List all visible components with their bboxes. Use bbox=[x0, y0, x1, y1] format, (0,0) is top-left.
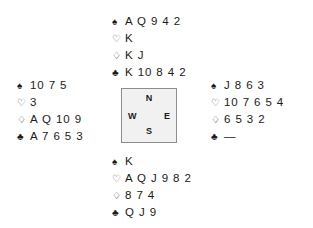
compass-north-label: N bbox=[146, 94, 153, 103]
compass-south-label: S bbox=[146, 127, 152, 136]
heart-icon: ♡ bbox=[112, 34, 125, 44]
hand-north-clubs-row: ♣ K 10 8 4 2 bbox=[112, 64, 186, 81]
hand-east-hearts-row: ♡ 10 7 6 5 4 bbox=[211, 94, 284, 111]
hand-west: ♠ 10 7 5 ♡ 3 ♢ A Q 10 9 ♣ A 7 6 5 3 bbox=[17, 77, 84, 145]
hand-north-hearts: K bbox=[125, 33, 134, 45]
compass-west-label: W bbox=[128, 111, 137, 120]
diamond-icon: ♢ bbox=[112, 51, 125, 61]
spade-icon: ♠ bbox=[112, 157, 125, 167]
hand-south-spades-row: ♠ K bbox=[112, 153, 192, 170]
hand-south-diamonds: 8 7 4 bbox=[125, 190, 155, 202]
diamond-icon: ♢ bbox=[112, 191, 125, 201]
hand-south-diamonds-row: ♢ 8 7 4 bbox=[112, 187, 192, 204]
spade-icon: ♠ bbox=[112, 17, 125, 27]
spade-icon: ♠ bbox=[211, 81, 224, 91]
hand-north-clubs: K 10 8 4 2 bbox=[125, 67, 186, 79]
heart-icon: ♡ bbox=[112, 174, 125, 184]
bridge-deal-diagram: ♠ A Q 9 4 2 ♡ K ♢ K J ♣ K 10 8 4 2 ♠ 10 … bbox=[0, 0, 313, 228]
diamond-icon: ♢ bbox=[211, 115, 224, 125]
hand-south-hearts: A Q J 9 8 2 bbox=[125, 173, 192, 185]
hand-south-hearts-row: ♡ A Q J 9 8 2 bbox=[112, 170, 192, 187]
hand-east-clubs: — bbox=[224, 131, 236, 143]
hand-east-diamonds: 6 5 3 2 bbox=[224, 114, 265, 126]
hand-north-hearts-row: ♡ K bbox=[112, 30, 186, 47]
hand-west-spades-row: ♠ 10 7 5 bbox=[17, 77, 84, 94]
club-icon: ♣ bbox=[112, 208, 125, 218]
club-icon: ♣ bbox=[211, 132, 224, 142]
hand-south-clubs-row: ♣ Q J 9 bbox=[112, 204, 192, 221]
hand-east-spades-row: ♠ J 8 6 3 bbox=[211, 77, 284, 94]
hand-north-diamonds-row: ♢ K J bbox=[112, 47, 186, 64]
hand-east: ♠ J 8 6 3 ♡ 10 7 6 5 4 ♢ 6 5 3 2 ♣ — bbox=[211, 77, 284, 145]
club-icon: ♣ bbox=[17, 132, 30, 142]
heart-icon: ♡ bbox=[211, 98, 224, 108]
hand-west-hearts-row: ♡ 3 bbox=[17, 94, 84, 111]
hand-north-spades: A Q 9 4 2 bbox=[125, 16, 181, 28]
hand-west-clubs-row: ♣ A 7 6 5 3 bbox=[17, 128, 84, 145]
diamond-icon: ♢ bbox=[17, 115, 30, 125]
heart-icon: ♡ bbox=[17, 98, 30, 108]
compass-east-label: E bbox=[164, 111, 170, 120]
hand-north-spades-row: ♠ A Q 9 4 2 bbox=[112, 13, 186, 30]
hand-north-diamonds: K J bbox=[125, 50, 144, 62]
hand-south-spades: K bbox=[125, 156, 134, 168]
hand-east-spades: J 8 6 3 bbox=[224, 80, 265, 92]
hand-east-hearts: 10 7 6 5 4 bbox=[224, 97, 284, 109]
hand-west-diamonds-row: ♢ A Q 10 9 bbox=[17, 111, 84, 128]
hand-south-clubs: Q J 9 bbox=[125, 207, 157, 219]
club-icon: ♣ bbox=[112, 68, 125, 78]
compass-box: N E S W bbox=[121, 88, 177, 143]
hand-south: ♠ K ♡ A Q J 9 8 2 ♢ 8 7 4 ♣ Q J 9 bbox=[112, 153, 192, 221]
spade-icon: ♠ bbox=[17, 81, 30, 91]
hand-west-clubs: A 7 6 5 3 bbox=[30, 131, 84, 143]
hand-north: ♠ A Q 9 4 2 ♡ K ♢ K J ♣ K 10 8 4 2 bbox=[112, 13, 186, 81]
hand-west-hearts: 3 bbox=[30, 97, 37, 109]
hand-east-diamonds-row: ♢ 6 5 3 2 bbox=[211, 111, 284, 128]
hand-east-clubs-row: ♣ — bbox=[211, 128, 284, 145]
hand-west-diamonds: A Q 10 9 bbox=[30, 114, 82, 126]
hand-west-spades: 10 7 5 bbox=[30, 80, 67, 92]
